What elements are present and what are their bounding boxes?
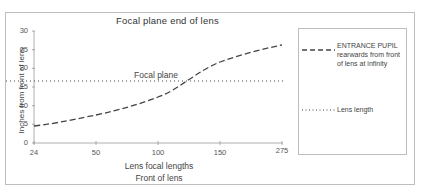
legend-entrance-pupil-line3: of lens at infinity — [337, 59, 387, 68]
x-tick-label: 275 — [270, 146, 294, 155]
focal-plane-annotation: Focal plane — [134, 70, 178, 80]
y-axis-label: Inches from front of lens — [17, 36, 26, 146]
x-tick-label: 100 — [146, 148, 170, 157]
x-axis-label: Lens focal lengths — [59, 161, 259, 171]
entrance-pupil-curve — [34, 45, 282, 126]
y-tick-label: 30 — [14, 26, 28, 35]
legend-lens-length: Lens length — [337, 105, 373, 114]
legend-entrance-pupil-line1: ENTRANCE PUPIL — [337, 41, 398, 50]
x-axis-sublabel: Front of lens — [59, 173, 259, 183]
x-tick-label: 150 — [208, 148, 232, 157]
x-tick-label: 50 — [84, 148, 108, 157]
x-tick-label: 24 — [22, 148, 46, 157]
legend-entrance-pupil-line2: rearwards from front — [337, 50, 400, 59]
